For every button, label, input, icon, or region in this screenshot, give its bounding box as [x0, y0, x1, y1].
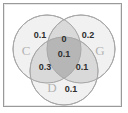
- set-label-d: D: [47, 80, 56, 95]
- region-value-g-only: 0.2: [82, 30, 95, 40]
- region-value-c-and-g: 0: [61, 34, 66, 44]
- set-label-g: G: [95, 43, 104, 58]
- region-value-c-g-d: 0.1: [58, 49, 71, 59]
- venn-diagram-figure: C G D 0.1 0.2 0 0.1 0.3 0.1 0.1: [0, 0, 128, 113]
- region-value-c-only: 0.1: [34, 30, 47, 40]
- region-value-g-and-d: 0.1: [76, 62, 89, 72]
- region-value-d-only: 0.1: [65, 84, 78, 94]
- venn-svg: C G D 0.1 0.2 0 0.1 0.3 0.1 0.1: [0, 0, 128, 113]
- region-value-c-and-d: 0.3: [39, 62, 52, 72]
- set-label-c: C: [22, 43, 31, 58]
